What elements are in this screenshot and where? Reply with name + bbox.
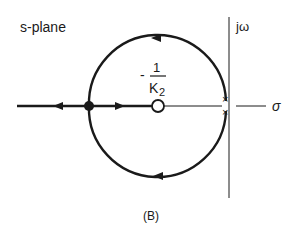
locus-lower-branch (89, 106, 226, 177)
zero-label-denominator: K (149, 80, 159, 96)
zero-label-sign: - (140, 67, 145, 83)
breakaway-point (84, 101, 94, 111)
pole-marker-lower: × (222, 106, 228, 118)
zero-marker (152, 100, 164, 112)
pole-marker-upper: × (222, 93, 228, 105)
left-locus-arrow-icon (53, 102, 63, 110)
zero-label-numerator: 1 (153, 60, 160, 75)
zero-label-subscript: 2 (159, 86, 165, 98)
figure-caption: (B) (143, 209, 159, 223)
root-locus-diagram: s-plane jω σ - 1 K 2 × × (B) (0, 0, 304, 231)
real-axis-label: σ (272, 98, 281, 114)
lower-arc-arrow-icon (153, 172, 163, 180)
s-plane-label: s-plane (20, 19, 66, 35)
imaginary-axis-label: jω (235, 19, 249, 34)
right-locus-arrow-icon (115, 102, 125, 110)
